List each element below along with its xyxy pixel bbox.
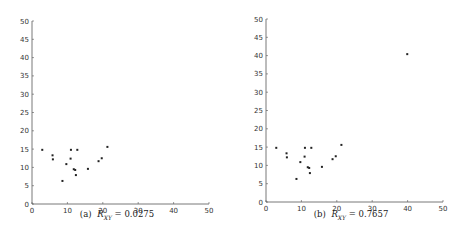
y-tick-label: 25 <box>254 107 263 115</box>
caption-sub: XY <box>338 214 346 221</box>
y-tick-label: 15 <box>254 144 263 152</box>
scatter-panel-a: 0102030405005101520253035404550 (a) RXY … <box>0 0 234 237</box>
data-point <box>101 157 103 159</box>
data-point <box>286 152 288 154</box>
data-point <box>98 160 100 162</box>
caption-value: = 0.0275 <box>115 209 155 219</box>
data-point <box>106 146 108 148</box>
data-point <box>61 180 63 182</box>
data-point <box>275 147 277 149</box>
y-tick-label: 5 <box>25 182 29 190</box>
data-point <box>87 168 89 170</box>
data-point <box>74 169 76 171</box>
scatter-panel-b: 0102030405005101520253035404550 (b) RXY … <box>234 0 468 237</box>
y-tick-label: 30 <box>20 91 29 99</box>
data-point <box>75 174 77 176</box>
data-point <box>52 158 54 160</box>
data-point <box>286 156 288 158</box>
y-tick-label: 15 <box>20 146 29 154</box>
data-point <box>308 167 310 169</box>
data-point <box>340 144 342 146</box>
y-tick-label: 5 <box>259 180 263 188</box>
data-point <box>65 163 67 165</box>
y-tick-label: 30 <box>254 89 263 97</box>
data-point <box>70 158 72 160</box>
y-tick-label: 40 <box>20 54 29 62</box>
y-tick-label: 10 <box>20 164 29 172</box>
y-tick-label: 25 <box>20 109 29 117</box>
scatter-plot-a: 0102030405005101520253035404550 <box>0 0 234 237</box>
data-point <box>321 166 323 168</box>
data-point <box>406 53 408 55</box>
data-point <box>76 149 78 151</box>
caption-label: (b) <box>314 209 326 219</box>
data-point <box>310 147 312 149</box>
data-point <box>335 155 337 157</box>
data-point <box>52 154 54 156</box>
caption-a: (a) RXY = 0.0275 <box>0 209 234 221</box>
y-tick-label: 10 <box>254 162 263 170</box>
data-point <box>304 147 306 149</box>
data-point <box>41 149 43 151</box>
data-point <box>304 156 306 158</box>
y-tick-label: 45 <box>254 34 263 42</box>
caption-label: (a) <box>80 209 92 219</box>
y-tick-label: 0 <box>259 199 263 207</box>
data-point <box>295 178 297 180</box>
y-tick-label: 50 <box>20 18 29 26</box>
y-tick-label: 0 <box>25 201 29 209</box>
y-tick-label: 20 <box>254 125 263 133</box>
data-point <box>332 158 334 160</box>
caption-value: = 0.7657 <box>349 209 389 219</box>
caption-sub: XY <box>104 214 112 221</box>
y-tick-label: 35 <box>20 72 29 80</box>
y-tick-label: 45 <box>20 36 29 44</box>
data-point <box>309 172 311 174</box>
y-tick-label: 50 <box>254 16 263 24</box>
y-tick-label: 20 <box>20 127 29 135</box>
y-tick-label: 35 <box>254 70 263 78</box>
data-point <box>299 161 301 163</box>
caption-b: (b) RXY = 0.7657 <box>234 209 468 221</box>
data-point <box>70 149 72 151</box>
y-tick-label: 40 <box>254 52 263 60</box>
scatter-plot-b: 0102030405005101520253035404550 <box>234 0 468 237</box>
